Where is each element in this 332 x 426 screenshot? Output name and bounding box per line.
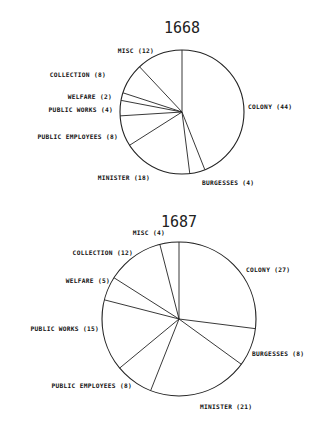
slice-label-misc: MISC (12)	[118, 47, 154, 54]
slice-divider	[120, 319, 179, 368]
slice-label-misc: MISC (4)	[133, 229, 165, 236]
slice-label-public-works: PUBLIC WORKS (15)	[31, 325, 99, 332]
slice-label-welfare: WELFARE (2)	[68, 93, 112, 100]
pie-slices-1668	[120, 50, 244, 174]
pie-labels-1668: COLONY (44)BURGESSES (4)MINISTER (18)PUB…	[37, 47, 292, 186]
pie-chart-1668: 1668 COLONY (44)BURGESSES (4)MINISTER (1…	[37, 19, 292, 186]
slice-label-burgesses: BURGESSES (8)	[252, 350, 304, 357]
slice-label-public-employees: PUBLIC EMPLOYEES (8)	[37, 133, 118, 140]
slice-label-collection: COLLECTION (12)	[73, 249, 133, 256]
slice-divider	[130, 112, 182, 145]
slice-label-colony: COLONY (44)	[248, 103, 292, 110]
pie-chart-1687: 1687 COLONY (27)BURGESSES (8)MINISTER (2…	[31, 213, 305, 410]
slice-divider	[120, 112, 182, 116]
slice-label-welfare: WELFARE (5)	[66, 277, 110, 284]
slice-label-public-employees: PUBLIC EMPLOYEES (8)	[51, 382, 132, 389]
pie-charts: 1668 COLONY (44)BURGESSES (4)MINISTER (1…	[0, 0, 332, 426]
slice-label-collection: COLLECTION (8)	[50, 71, 106, 78]
slice-label-colony: COLONY (27)	[246, 266, 290, 273]
chart-title-1687: 1687	[161, 213, 197, 231]
slice-label-public-works: PUBLIC WORKS (4)	[49, 106, 113, 113]
chart-title-1668: 1668	[164, 19, 200, 37]
slice-divider	[114, 278, 179, 319]
slice-divider	[160, 244, 179, 319]
slice-divider	[104, 300, 179, 319]
pie-labels-1687: COLONY (27)BURGESSES (8)MINISTER (21)PUB…	[31, 229, 305, 410]
slice-divider	[151, 319, 179, 391]
slice-label-burgesses: BURGESSES (4)	[202, 179, 254, 186]
slice-label-minister: MINISTER (21)	[200, 403, 252, 410]
slice-label-minister: MINISTER (18)	[98, 174, 150, 181]
pie-slices-1687	[102, 242, 256, 396]
